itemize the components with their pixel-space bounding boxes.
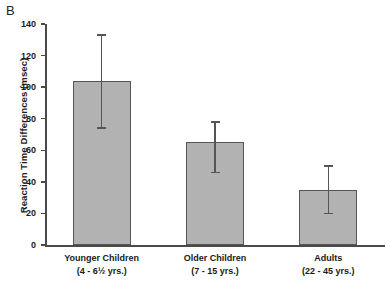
error-bar-line: [328, 166, 330, 213]
x-category-name: Adults: [258, 252, 386, 265]
y-tick: [41, 244, 46, 245]
y-tick-label: 60: [2, 145, 36, 155]
x-axis-line: [45, 245, 385, 247]
error-bar-cap-lower: [324, 213, 333, 215]
y-tick: [41, 118, 46, 119]
y-tick-label: 140: [2, 19, 36, 29]
error-bar-cap-upper: [97, 34, 106, 36]
error-bar-line: [214, 122, 216, 173]
error-bar-cap-lower: [97, 127, 106, 129]
y-axis-line: [45, 24, 47, 245]
panel-label: B: [6, 3, 15, 18]
error-bar-cap-lower: [211, 172, 220, 174]
y-tick: [41, 150, 46, 151]
y-tick: [41, 213, 46, 214]
y-tick-label: 20: [2, 208, 36, 218]
y-tick-label: 40: [2, 177, 36, 187]
y-tick-label: 80: [2, 114, 36, 124]
y-tick: [41, 86, 46, 87]
y-tick: [41, 55, 46, 56]
y-tick-label: 0: [2, 240, 36, 250]
figure-panel-b: B Reaction Time Differences (msec) 02040…: [0, 0, 386, 290]
y-tick-label: 100: [2, 82, 36, 92]
error-bar-cap-upper: [211, 121, 220, 123]
error-bar-line: [101, 35, 103, 128]
y-tick-label: 120: [2, 51, 36, 61]
plot-area: 020406080100120140: [45, 24, 385, 245]
x-category-label: Adults(22 - 45 yrs.): [258, 252, 386, 277]
y-tick: [41, 181, 46, 182]
error-bar-cap-upper: [324, 165, 333, 167]
x-category-agerange: (22 - 45 yrs.): [258, 265, 386, 278]
y-tick: [41, 23, 46, 24]
